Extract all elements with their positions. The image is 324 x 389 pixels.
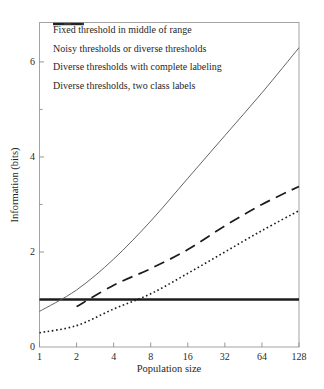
y-axis-title: Information (bits) (9, 148, 20, 223)
y-tick-label: 0 (30, 341, 35, 352)
x-tick-label: 64 (257, 351, 267, 362)
x-tick-label: 16 (183, 351, 193, 362)
legend-label: Diverse thresholds with complete labelin… (53, 62, 222, 72)
legend-item-noisy-thresholds: Noisy thresholds or diverse thresholds (53, 40, 222, 59)
x-tick-label: 32 (220, 351, 230, 362)
chart-legend: Fixed threshold in middle of range Noisy… (53, 21, 222, 95)
x-tick-label: 2 (74, 351, 79, 362)
y-tick-label: 6 (30, 56, 35, 67)
x-axis-title: Population size (137, 363, 201, 374)
x-tick-label: 1 (37, 351, 42, 362)
y-tick-label: 4 (30, 151, 35, 162)
line-chart-figure: 12481632641280246 Fixed threshold in mid… (0, 0, 324, 389)
x-tick-label: 4 (111, 351, 116, 362)
legend-label: Diverse thresholds, two class labels (53, 81, 195, 91)
legend-label: Noisy thresholds or diverse thresholds (53, 44, 206, 54)
legend-item-complete-labeling: Diverse thresholds with complete labelin… (53, 58, 222, 77)
legend-item-two-class-labels: Diverse thresholds, two class labels (53, 77, 222, 96)
series-line-3 (77, 186, 299, 306)
series-line-1 (40, 211, 300, 333)
x-tick-label: 8 (148, 351, 153, 362)
legend-line-sample-icon (53, 21, 84, 27)
x-tick-label: 128 (292, 351, 307, 362)
y-tick-label: 2 (30, 246, 35, 257)
